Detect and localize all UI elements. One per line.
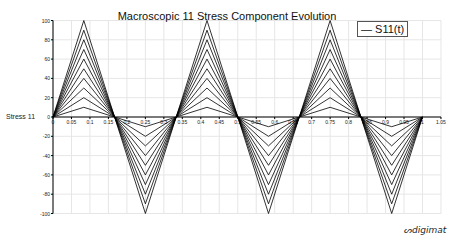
legend: — S11(t)	[357, 21, 408, 37]
svg-text:80: 80	[44, 37, 50, 43]
digimat-logo: ᔕdigimat	[404, 225, 446, 235]
svg-text:0.4: 0.4	[197, 119, 204, 125]
svg-text:0.35: 0.35	[177, 119, 187, 125]
svg-text:-80: -80	[43, 191, 50, 197]
svg-text:0: 0	[52, 119, 55, 125]
svg-text:0.45: 0.45	[214, 119, 224, 125]
svg-text:0.75: 0.75	[325, 119, 335, 125]
svg-text:0.05: 0.05	[67, 119, 77, 125]
y-axis-label: Stress 11	[6, 113, 35, 120]
svg-text:0.25: 0.25	[141, 119, 151, 125]
legend-entry: S11(t)	[375, 23, 404, 35]
chart-canvas: 100806040200-20-40-60-80-10000.050.10.15…	[0, 0, 462, 248]
svg-text:1.05: 1.05	[436, 119, 446, 125]
svg-text:20: 20	[44, 95, 50, 101]
svg-text:-60: -60	[43, 172, 50, 178]
svg-text:40: 40	[44, 75, 50, 81]
svg-text:-40: -40	[43, 153, 50, 159]
svg-text:60: 60	[44, 56, 50, 62]
svg-text:0: 0	[47, 114, 50, 120]
svg-text:-100: -100	[40, 211, 50, 217]
svg-text:0.1: 0.1	[86, 119, 93, 125]
svg-text:0.8: 0.8	[345, 119, 352, 125]
svg-text:0.7: 0.7	[308, 119, 315, 125]
svg-text:0.15: 0.15	[104, 119, 114, 125]
svg-text:-20: -20	[43, 133, 50, 139]
